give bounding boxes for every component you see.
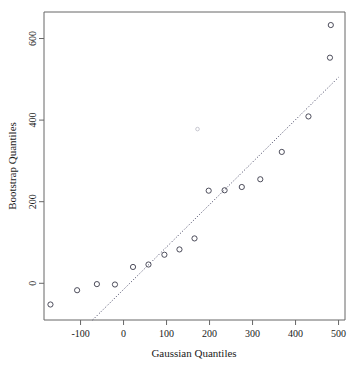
y-tick-label: 600: [27, 31, 38, 46]
x-tick-label: 0: [121, 328, 126, 339]
x-tick-label: 500: [331, 328, 346, 339]
y-tick-label: 0: [27, 281, 38, 286]
y-tick-label: 400: [27, 113, 38, 128]
x-tick-label: 100: [159, 328, 174, 339]
qq-plot-figure: -1000100200300400500 0200400600 Gaussian…: [0, 0, 364, 368]
x-tick-label: 400: [288, 328, 303, 339]
y-tick-label: 200: [27, 194, 38, 209]
qq-plot-canvas: -1000100200300400500 0200400600 Gaussian…: [0, 0, 364, 368]
x-tick-label: -100: [71, 328, 89, 339]
x-tick-label: 300: [245, 328, 260, 339]
x-axis-title: Gaussian Quantiles: [151, 347, 236, 359]
y-axis-title: Bootstrap Quantiles: [6, 122, 18, 210]
figure-background: [0, 0, 364, 368]
x-tick-label: 200: [202, 328, 217, 339]
